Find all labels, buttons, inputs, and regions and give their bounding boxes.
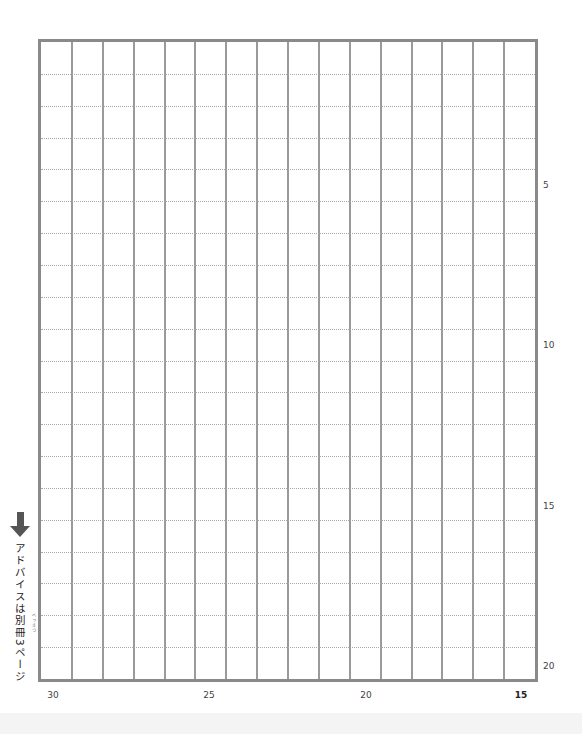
row-divider <box>41 106 535 107</box>
row-label-15: 15 <box>543 501 554 511</box>
row-divider <box>41 138 535 139</box>
row-divider <box>41 520 535 521</box>
column-label-25: 25 <box>203 690 214 700</box>
column-label-15: 15 <box>515 690 528 700</box>
row-divider <box>41 74 535 75</box>
column-label-30: 30 <box>47 690 58 700</box>
row-divider <box>41 297 535 298</box>
row-divider <box>41 361 535 362</box>
row-divider <box>41 265 535 266</box>
row-divider <box>41 552 535 553</box>
row-divider <box>41 488 535 489</box>
row-divider <box>41 201 535 202</box>
row-divider <box>41 424 535 425</box>
row-divider <box>41 647 535 648</box>
row-divider <box>41 329 535 330</box>
arrow-down-icon <box>10 512 30 537</box>
advice-note: アドバイスは別冊3ページ べっさつ <box>8 512 32 683</box>
row-divider <box>41 233 535 234</box>
row-divider <box>41 392 535 393</box>
row-label-20: 20 <box>543 661 554 671</box>
column-label-20: 20 <box>360 690 371 700</box>
row-divider <box>41 456 535 457</box>
furigana-bessatsu: べっさつ <box>30 613 36 633</box>
writing-grid[interactable] <box>38 39 538 682</box>
row-divider <box>41 583 535 584</box>
row-label-5: 5 <box>543 180 549 190</box>
bottom-band <box>0 713 582 734</box>
row-divider <box>41 169 535 170</box>
row-label-10: 10 <box>543 340 554 350</box>
advice-label: アドバイスは別冊3ページ <box>14 543 26 683</box>
row-divider <box>41 615 535 616</box>
advice-text: アドバイスは別冊3ページ べっさつ <box>13 543 28 683</box>
